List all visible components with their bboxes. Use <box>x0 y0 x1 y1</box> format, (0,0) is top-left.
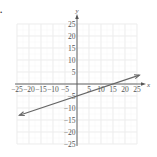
y-tick-label: 20 <box>68 32 76 41</box>
y-tick-label: 10 <box>68 56 76 65</box>
x-tick-label: 10 <box>97 85 105 94</box>
x-axis-arrow-icon <box>141 82 146 86</box>
y-tick-label: 15 <box>68 44 76 53</box>
y-tick-label: −20 <box>64 128 76 137</box>
x-tick-label: −20 <box>23 85 35 94</box>
y-tick-label: −25 <box>64 140 76 149</box>
y-tick-label: 5 <box>72 68 76 77</box>
x-tick-label: 20 <box>121 85 129 94</box>
x-axis-label: x <box>146 81 151 89</box>
y-tick-label: −10 <box>64 104 76 113</box>
y-tick-label: −15 <box>64 116 76 125</box>
line-series <box>19 75 139 115</box>
x-tick-label: 15 <box>109 85 117 94</box>
data-line <box>19 75 139 116</box>
y-tick-label: 25 <box>68 20 76 29</box>
x-tick-label: −25 <box>11 85 23 94</box>
x-tick-label: 25 <box>133 85 141 94</box>
x-tick-label: −15 <box>35 85 47 94</box>
coordinate-plane: xy −25−20−15−10−5510152025252015105−5−10… <box>0 0 157 157</box>
x-tick-label: −10 <box>47 85 59 94</box>
y-axis-label: y <box>75 7 80 15</box>
